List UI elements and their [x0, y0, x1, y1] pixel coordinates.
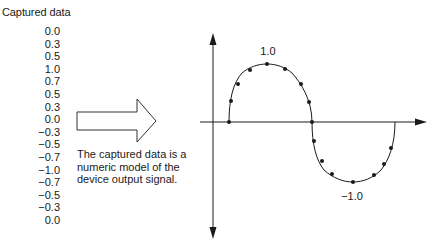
data-point	[320, 159, 324, 163]
data-point	[310, 120, 314, 124]
data-point	[283, 67, 287, 71]
data-point	[389, 146, 393, 150]
peak-label: 1.0	[260, 45, 275, 57]
trough-label: −1.0	[341, 190, 363, 202]
data-point	[265, 62, 269, 66]
y-axis-up-arrow-icon	[210, 33, 217, 45]
data-point	[382, 162, 386, 166]
data-point	[351, 180, 355, 184]
data-point	[227, 120, 231, 124]
plot-axes	[200, 33, 427, 239]
right-block-arrow-icon	[77, 99, 156, 142]
sample-points	[227, 62, 393, 184]
data-point	[312, 139, 316, 143]
data-point	[236, 82, 240, 86]
data-point	[307, 100, 311, 104]
data-point	[299, 82, 303, 86]
y-axis-down-arrow-icon	[210, 227, 217, 239]
x-axis-right-arrow-icon	[415, 119, 427, 126]
data-point	[248, 68, 252, 72]
data-point	[330, 172, 334, 176]
data-point	[372, 173, 376, 177]
data-point	[229, 99, 233, 103]
diagram-canvas: 1.0 −1.0	[0, 0, 446, 245]
